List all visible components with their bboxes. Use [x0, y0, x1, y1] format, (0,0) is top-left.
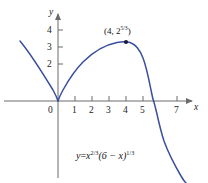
y-tick-label-3: 3 [47, 43, 52, 53]
point-label-open: (4, 2 [104, 26, 121, 36]
curve-left-branch [20, 41, 58, 101]
x-tick-label-3: 3 [106, 106, 111, 116]
origin-tick-label: 0 [48, 106, 53, 116]
function-graph-figure: (4, 25/3) y x 0 1 2 3 4 5 7 2 3 4 y=x2/3… [0, 0, 208, 183]
maximum-point-label: (4, 25/3) [104, 27, 131, 36]
maximum-point-marker [124, 40, 128, 44]
equation-caption: y=x2/3(6 − x)1/3 [76, 151, 134, 161]
x-tick-label-4: 4 [123, 106, 128, 116]
x-tick-label-1: 1 [72, 106, 77, 116]
x-axis-ticks [75, 96, 177, 101]
curve-main-arch [58, 42, 154, 101]
curve-descending-tail [154, 101, 186, 183]
y-axis-ticks [58, 30, 63, 64]
point-label-exponent: 5/3 [121, 25, 128, 31]
equation-middle: (6 − x) [98, 150, 126, 161]
y-tick-label-2: 2 [47, 60, 52, 70]
x-tick-label-5: 5 [140, 106, 145, 116]
x-axis-label: x [194, 103, 198, 113]
y-tick-label-4: 4 [47, 26, 52, 36]
equation-exponent-2: 1/3 [126, 149, 134, 156]
x-tick-label-2: 2 [89, 106, 94, 116]
y-axis-label: y [49, 8, 53, 18]
point-label-close: ) [128, 26, 131, 36]
x-tick-label-7: 7 [174, 106, 179, 116]
